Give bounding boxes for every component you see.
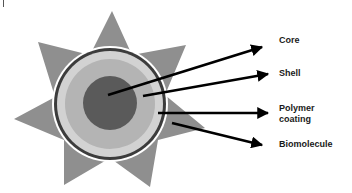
- label-polymer-line1: Polymer: [279, 103, 315, 114]
- label-biomolecule: Biomolecule: [279, 139, 333, 150]
- label-shell: Shell: [279, 68, 301, 79]
- label-polymer-line2: coating: [279, 114, 311, 125]
- label-core: Core: [279, 35, 300, 46]
- nanoparticle-diagram: [0, 0, 352, 193]
- arrow-biomolecule: [172, 123, 262, 145]
- core-layer: [83, 76, 137, 130]
